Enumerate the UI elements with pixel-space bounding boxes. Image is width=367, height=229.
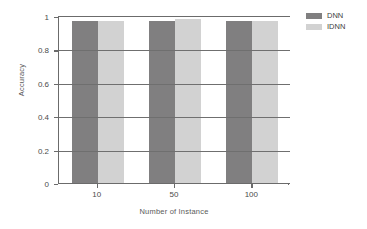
bar-chart-figure: Accuracy 00.20.40.60.81 1050100 Number o… xyxy=(0,0,367,229)
x-tick-mark xyxy=(97,184,98,188)
y-tick-label: 0.4 xyxy=(0,113,49,122)
x-tick-label: 10 xyxy=(92,190,101,199)
y-tick-label: 0.2 xyxy=(0,146,49,155)
chart-legend: DNNIDNN xyxy=(306,11,345,33)
x-tick-label: 100 xyxy=(245,190,258,199)
y-tick-label: 0 xyxy=(0,180,49,189)
bar-dnn-50 xyxy=(149,21,175,183)
y-tick-mark xyxy=(54,184,58,185)
legend-item: IDNN xyxy=(306,22,345,31)
gridline xyxy=(59,50,290,51)
bar-idnn-50 xyxy=(175,19,201,183)
y-tick-mark xyxy=(54,50,58,51)
bar-dnn-10 xyxy=(72,21,98,183)
x-tick-label: 50 xyxy=(170,190,179,199)
legend-swatch-icon xyxy=(306,13,322,19)
bar-idnn-10 xyxy=(98,21,124,183)
y-tick-mark xyxy=(54,84,58,85)
bars-layer xyxy=(59,17,290,183)
legend-swatch-icon xyxy=(306,24,322,30)
legend-label: DNN xyxy=(327,11,343,20)
x-axis-title: Number of Instance xyxy=(58,207,290,216)
bar-dnn-100 xyxy=(226,21,252,183)
x-tick-mark xyxy=(251,184,252,188)
x-tick-mark xyxy=(174,184,175,188)
gridline xyxy=(59,151,290,152)
y-tick-mark xyxy=(54,151,58,152)
y-tick-label: 0.8 xyxy=(0,46,49,55)
y-tick-mark xyxy=(54,17,58,18)
y-tick-mark xyxy=(54,117,58,118)
gridline xyxy=(59,117,290,118)
y-tick-label: 1 xyxy=(0,13,49,22)
legend-label: IDNN xyxy=(327,22,345,31)
bar-idnn-100 xyxy=(252,21,278,183)
y-tick-label: 0.6 xyxy=(0,79,49,88)
legend-item: DNN xyxy=(306,11,345,20)
gridline xyxy=(59,84,290,85)
plot-area xyxy=(58,17,290,184)
